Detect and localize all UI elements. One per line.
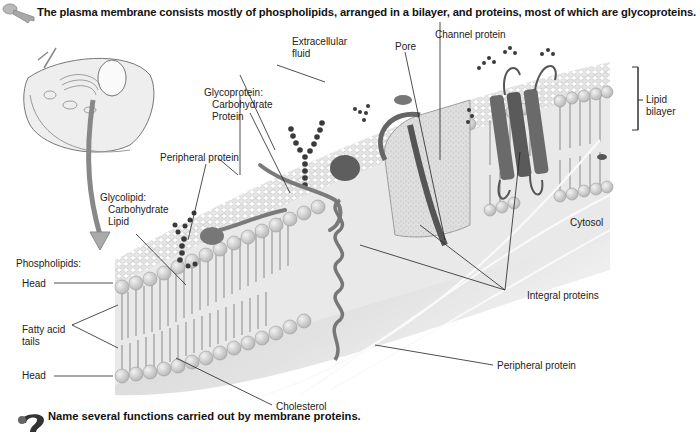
- label-line: Carbohydrate: [204, 99, 273, 111]
- key-icon: [3, 4, 34, 23]
- label-channel-protein: Channel protein: [435, 29, 506, 41]
- label-glycoprotein: Glycoprotein: Carbohydrate Protein: [204, 87, 273, 123]
- label-peripheral-protein-top: Peripheral protein: [160, 152, 239, 164]
- question-mark-icon: [18, 414, 44, 432]
- label-line: Glycolipid:: [100, 192, 169, 204]
- label-line: Glycoprotein:: [204, 87, 273, 99]
- channel-protein: [380, 100, 470, 245]
- label-cytosol: Cytosol: [570, 217, 603, 229]
- label-line: Protein: [204, 111, 273, 123]
- figure-title: The plasma membrane consists mostly of p…: [37, 6, 696, 18]
- label-line: Fatty acid: [22, 324, 65, 336]
- label-fatty-acid-tails: Fatty acid tails: [22, 324, 65, 348]
- label-extracellular-fluid: Extracellular fluid: [292, 36, 347, 60]
- label-line: Carbohydrate: [100, 204, 169, 216]
- zoom-arrow-head: [90, 232, 110, 250]
- label-peripheral-protein-bottom: Peripheral protein: [497, 360, 576, 372]
- review-question: Name several functions carried out by me…: [48, 410, 361, 422]
- label-line: tails: [22, 336, 65, 348]
- label-glycolipid: Glycolipid: Carbohydrate Lipid: [100, 192, 169, 228]
- label-line: Lipid: [646, 94, 675, 106]
- label-lipid-bilayer: Lipid bilayer: [646, 94, 675, 118]
- label-pore: Pore: [395, 41, 416, 53]
- label-line: Extracellular: [292, 36, 347, 48]
- label-line: fluid: [292, 48, 347, 60]
- label-phospholipids: Phospholipids:: [16, 258, 81, 270]
- label-head-top: Head: [22, 278, 46, 290]
- label-head-bottom: Head: [22, 370, 46, 382]
- bilayer-bracket: [632, 67, 643, 130]
- label-line: Lipid: [100, 216, 169, 228]
- label-integral-proteins: Integral proteins: [527, 290, 599, 302]
- label-line: bilayer: [646, 106, 675, 118]
